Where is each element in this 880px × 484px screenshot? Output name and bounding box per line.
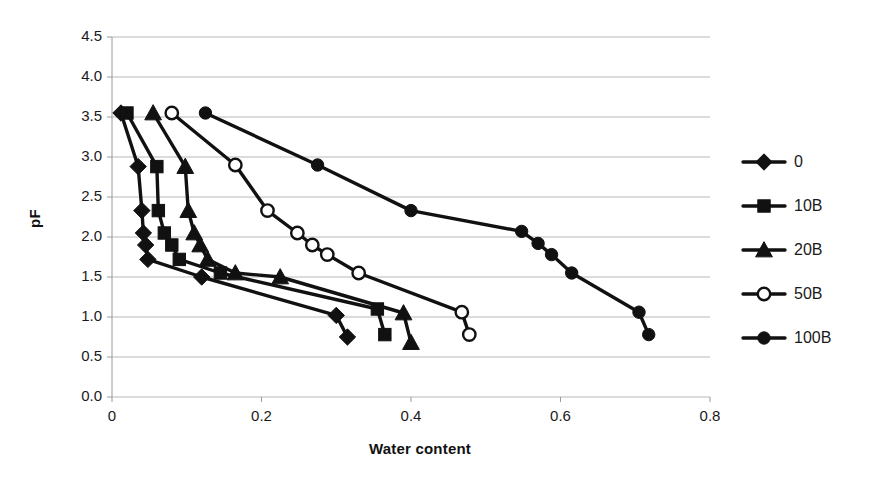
data-point-circle <box>532 237 544 249</box>
data-point-triangle <box>199 251 216 266</box>
data-point-square <box>121 107 133 119</box>
legend-item-100B[interactable]: 100B <box>740 316 870 360</box>
legend-marker-square-icon <box>740 194 788 218</box>
data-point-square <box>152 204 164 216</box>
series-100B <box>199 107 655 341</box>
data-point-square <box>758 200 770 212</box>
y-tick-label: 3.5 <box>58 107 102 124</box>
y-tick-label: 4.0 <box>58 67 102 84</box>
data-point-circle <box>758 288 770 300</box>
data-point-diamond <box>140 251 156 267</box>
data-point-diamond <box>339 329 355 345</box>
data-point-circle <box>463 328 475 340</box>
series-0 <box>113 105 356 345</box>
y-tick-label: 1.5 <box>58 267 102 284</box>
data-point-circle <box>306 239 318 251</box>
y-axis-title: pF <box>26 179 43 259</box>
legend-label: 10B <box>794 197 822 215</box>
data-point-diamond <box>130 158 146 174</box>
legend-label: 0 <box>794 153 803 171</box>
chart-container: 0.00.51.01.52.02.53.03.54.04.5 00.20.40.… <box>0 0 880 484</box>
data-point-diamond <box>137 237 153 253</box>
legend-item-20B[interactable]: 20B <box>740 228 870 272</box>
legend-marker-circle-icon <box>740 282 788 306</box>
data-series-layer <box>113 105 655 350</box>
data-point-circle <box>405 204 417 216</box>
data-point-circle <box>545 248 557 260</box>
legend-item-50B[interactable]: 50B <box>740 272 870 316</box>
data-point-circle <box>566 267 578 279</box>
data-point-circle <box>311 159 323 171</box>
y-tick-label: 2.0 <box>58 227 102 244</box>
data-point-circle <box>321 248 333 260</box>
legend-marker-diamond-icon <box>740 150 788 174</box>
data-point-circle <box>456 306 468 318</box>
data-point-square <box>379 328 391 340</box>
data-point-triangle <box>180 202 197 217</box>
x-tick-label: 0.4 <box>381 407 441 424</box>
series-50B <box>166 107 476 341</box>
x-tick-label: 0.6 <box>531 407 591 424</box>
x-tick-label: 0.2 <box>232 407 292 424</box>
series-line-0 <box>121 113 347 337</box>
legend-marker-triangle-icon <box>740 238 788 262</box>
data-point-diamond <box>328 307 344 323</box>
series-line-100B <box>205 113 648 335</box>
series-line-10B <box>127 113 385 335</box>
data-point-circle <box>758 332 770 344</box>
y-tick-label: 2.5 <box>58 187 102 204</box>
data-point-circle <box>166 107 178 119</box>
data-point-circle <box>643 328 655 340</box>
series-line-50B <box>172 113 470 335</box>
data-point-diamond <box>194 269 210 285</box>
legend-label: 20B <box>794 241 822 259</box>
y-tick-label: 0.0 <box>58 387 102 404</box>
data-point-circle <box>633 306 645 318</box>
data-point-circle <box>199 107 211 119</box>
data-point-diamond <box>134 202 150 218</box>
data-point-circle <box>261 204 273 216</box>
legend-item-10B[interactable]: 10B <box>740 184 870 228</box>
data-point-triangle <box>145 105 162 120</box>
x-axis-title: Water content <box>300 440 540 457</box>
legend-marker-circle-icon <box>740 326 788 350</box>
data-point-square <box>166 239 178 251</box>
data-point-circle <box>291 227 303 239</box>
y-tick-label: 1.0 <box>58 307 102 324</box>
y-tick-label: 0.5 <box>58 347 102 364</box>
data-point-circle <box>352 267 364 279</box>
legend-label: 100B <box>794 329 831 347</box>
data-point-square <box>173 253 185 265</box>
series-10B <box>121 107 391 341</box>
chart-legend: 010B20B50B100B <box>740 140 870 360</box>
data-point-circle <box>515 225 527 237</box>
data-point-square <box>158 227 170 239</box>
legend-item-0[interactable]: 0 <box>740 140 870 184</box>
data-point-circle <box>229 159 241 171</box>
x-tick-label: 0 <box>82 407 142 424</box>
data-point-triangle <box>177 158 194 173</box>
data-point-square <box>151 160 163 172</box>
data-point-triangle <box>403 334 420 349</box>
y-tick-label: 4.5 <box>58 27 102 44</box>
legend-label: 50B <box>794 285 822 303</box>
data-point-diamond <box>756 154 772 170</box>
y-tick-label: 3.0 <box>58 147 102 164</box>
x-tick-label: 0.8 <box>680 407 740 424</box>
